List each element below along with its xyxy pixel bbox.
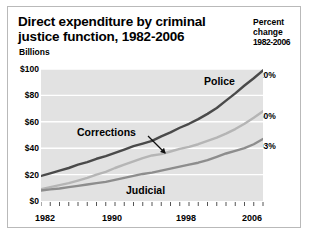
series-label-police: Police <box>204 75 235 87</box>
chart-figure: Direct expenditure by criminal justice f… <box>7 6 301 228</box>
x-tick-1998: 1998 <box>176 213 196 223</box>
series-label-corrections: Corrections <box>77 126 136 138</box>
line-corrections <box>41 111 263 189</box>
series-label-judicial: Judicial <box>126 184 165 196</box>
x-tick-2006: 2006 <box>242 213 262 223</box>
x-axis-minor-ticks <box>41 201 281 213</box>
data-lines <box>41 69 263 201</box>
x-tick-1990: 1990 <box>102 213 122 223</box>
x-tick-1982: 1982 <box>35 213 55 223</box>
plot-area <box>41 69 263 201</box>
